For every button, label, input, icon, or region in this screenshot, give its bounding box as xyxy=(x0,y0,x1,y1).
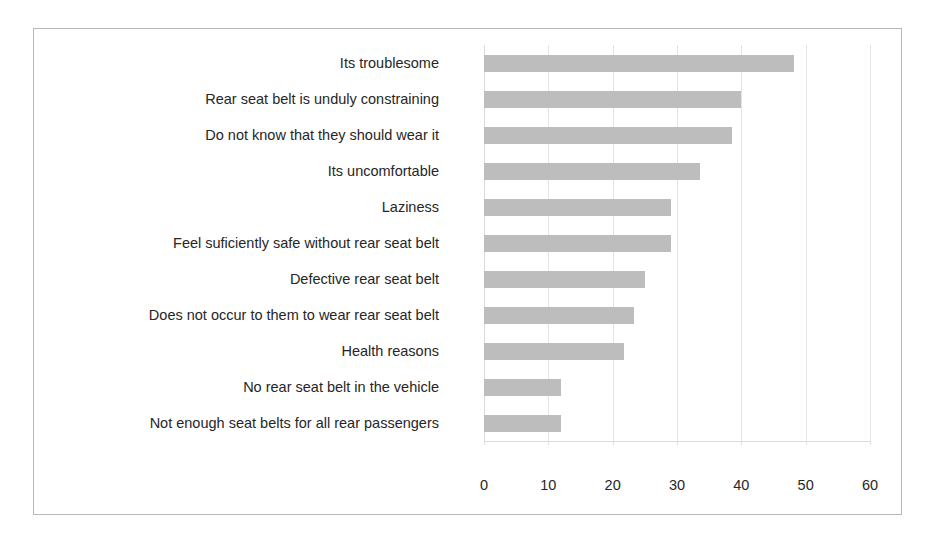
category-label: Not enough seat belts for all rear passe… xyxy=(0,405,439,441)
x-tick-label-0: 0 xyxy=(480,477,488,493)
x-tick-mark-0 xyxy=(484,441,485,445)
bar xyxy=(484,415,561,432)
bar xyxy=(484,163,700,180)
x-tick-label-40: 40 xyxy=(733,477,749,493)
category-label: Rear seat belt is unduly constraining xyxy=(0,81,439,117)
bar xyxy=(484,235,671,252)
x-tick-mark-40 xyxy=(741,441,742,445)
bar xyxy=(484,379,561,396)
chart-frame: Its troublesomeRear seat belt is unduly … xyxy=(33,28,902,515)
bar xyxy=(484,127,732,144)
x-tick-label-10: 10 xyxy=(540,477,556,493)
category-label: No rear seat belt in the vehicle xyxy=(0,369,439,405)
category-label: Its troublesome xyxy=(0,45,439,81)
x-tick-mark-60 xyxy=(870,441,871,445)
x-tick-label-30: 30 xyxy=(669,477,685,493)
x-tick-label-60: 60 xyxy=(862,477,878,493)
figure: Its troublesomeRear seat belt is unduly … xyxy=(0,0,931,548)
x-tick-mark-20 xyxy=(613,441,614,445)
category-label: Does not occur to them to wear rear seat… xyxy=(0,297,439,333)
category-label: Its uncomfortable xyxy=(0,153,439,189)
x-axis-tick-labels: 0102030405060 xyxy=(484,477,871,501)
bar xyxy=(484,271,645,288)
x-tick-mark-50 xyxy=(806,441,807,445)
bar xyxy=(484,343,624,360)
category-label: Do not know that they should wear it xyxy=(0,117,439,153)
x-tick-label-50: 50 xyxy=(798,477,814,493)
x-tick-mark-10 xyxy=(548,441,549,445)
x-tick-label-20: 20 xyxy=(605,477,621,493)
x-tick-mark-30 xyxy=(677,441,678,445)
bar xyxy=(484,199,671,216)
bar xyxy=(484,91,741,108)
category-label: Health reasons xyxy=(0,333,439,369)
category-label: Defective rear seat belt xyxy=(0,261,439,297)
category-label: Laziness xyxy=(0,189,439,225)
category-label: Feel suficiently safe without rear seat … xyxy=(0,225,439,261)
bar xyxy=(484,55,794,72)
bar xyxy=(484,307,634,324)
